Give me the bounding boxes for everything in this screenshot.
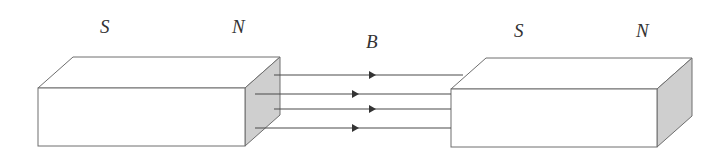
left-magnet-front-face [38, 88, 245, 146]
magnetic-field-diagram: S N B S N [0, 0, 711, 152]
right-magnet-north-label: N [635, 20, 650, 41]
magnetic-field-lines [255, 71, 463, 132]
left-magnet [38, 57, 280, 146]
right-magnet-front-face [451, 89, 657, 147]
right-magnet [451, 58, 692, 147]
arrow-right-icon [352, 124, 359, 132]
right-magnet-south-label: S [514, 20, 524, 41]
left-magnet-north-label: N [231, 16, 246, 37]
field-b-label: B [366, 31, 378, 52]
left-magnet-south-label: S [100, 16, 110, 37]
right-magnet-top-face [451, 58, 692, 89]
arrow-right-icon [352, 90, 359, 98]
left-magnet-top-face [38, 57, 280, 88]
arrow-right-icon [369, 71, 376, 79]
arrow-right-icon [369, 105, 376, 113]
